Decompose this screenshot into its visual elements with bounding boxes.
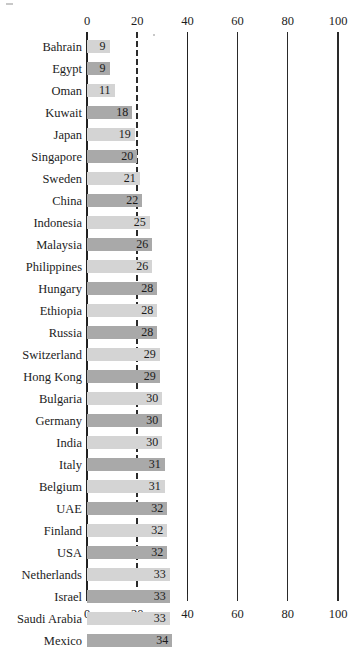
bar-value-label: 33 (87, 567, 166, 582)
category-label: Bulgaria (39, 391, 82, 407)
bar-row: Oman11 (0, 80, 360, 102)
bar-row: China22 (0, 190, 360, 212)
bar-row: Philippines26 (0, 256, 360, 278)
bar-value-label: 32 (87, 501, 163, 516)
bar-row: Hong Kong29 (0, 366, 360, 388)
category-label: Belgium (39, 479, 82, 495)
bar-value-label: 29 (87, 347, 156, 362)
bar-value-label: 31 (87, 479, 161, 494)
bar-row: USA32 (0, 542, 360, 564)
bar-row: Germany30 (0, 410, 360, 432)
bar-value-label: 33 (87, 589, 166, 604)
bar-value-label: 28 (87, 281, 153, 296)
bar-value-label: 19 (87, 127, 131, 142)
bar-value-label: 28 (87, 303, 153, 318)
bar-row: UAE32 (0, 498, 360, 520)
category-label: Hong Kong (23, 369, 82, 385)
category-label: Switzerland (22, 347, 82, 363)
category-label: Singapore (31, 149, 82, 165)
xtick-label-top-80: 80 (268, 14, 308, 28)
category-label: Mexico (44, 633, 82, 649)
category-label: Indonesia (33, 215, 82, 231)
bar-value-label: 9 (87, 39, 106, 54)
bar-value-label: 21 (87, 171, 136, 186)
xtick-label-top-40: 40 (167, 14, 207, 28)
bar-row: Israel33 (0, 586, 360, 608)
bar-value-label: 26 (87, 259, 148, 274)
bar-row: Ethiopia28 (0, 300, 360, 322)
xtick-label-top-60: 60 (218, 14, 258, 28)
bar-value-label: 22 (87, 193, 138, 208)
category-label: UAE (56, 501, 82, 517)
bar-row: Netherlands33 (0, 564, 360, 586)
category-label: Sweden (42, 171, 82, 187)
bar-value-label: 11 (87, 83, 111, 98)
category-label: Saudi Arabia (17, 611, 82, 627)
bar-row: Mexico34 (0, 630, 360, 651)
category-label: USA (57, 545, 82, 561)
category-label: Hungary (38, 281, 82, 297)
bar-row: Indonesia25 (0, 212, 360, 234)
bar-row: Belgium31 (0, 476, 360, 498)
category-label: Netherlands (22, 567, 82, 583)
category-label: Finland (44, 523, 82, 539)
bar-value-label: 31 (87, 457, 161, 472)
bar-row: Switzerland29 (0, 344, 360, 366)
bar-value-label: 34 (87, 633, 168, 648)
category-label: Italy (59, 457, 82, 473)
bar-row: Sweden21 (0, 168, 360, 190)
bar-row: Italy31 (0, 454, 360, 476)
bar-value-label: 30 (87, 435, 158, 450)
bar-value-label: 28 (87, 325, 153, 340)
bar-value-label: 32 (87, 523, 163, 538)
scan-artifact-mark (6, 3, 13, 5)
category-label: Philippines (26, 259, 82, 275)
category-label: Oman (51, 83, 82, 99)
xtick-label-top-100: 100 (318, 14, 358, 28)
bar-row: Singapore20 (0, 146, 360, 168)
bar-row: Finland32 (0, 520, 360, 542)
bar-row: Japan19 (0, 124, 360, 146)
bar-value-label: 33 (87, 611, 166, 626)
category-label: Japan (54, 127, 82, 143)
category-label: India (56, 435, 82, 451)
bar-row: Malaysia26 (0, 234, 360, 256)
xtick-label-top-0: 0 (67, 14, 107, 28)
bar-value-label: 9 (87, 61, 106, 76)
bar-value-label: 20 (87, 149, 133, 164)
category-label: China (52, 193, 82, 209)
xtick-label-top-20: 20 (117, 14, 157, 28)
bar-value-label: 30 (87, 391, 158, 406)
category-label: Kuwait (45, 105, 82, 121)
category-label: Malaysia (36, 237, 82, 253)
bar-value-label: 30 (87, 413, 158, 428)
category-label: Russia (49, 325, 82, 341)
bar-row: Saudi Arabia33 (0, 608, 360, 630)
category-label: Ethiopia (40, 303, 82, 319)
bar-row: Russia28 (0, 322, 360, 344)
bar-value-label: 29 (87, 369, 156, 384)
category-label: Israel (54, 589, 82, 605)
category-label: Egypt (52, 61, 82, 77)
bar-row: Bahrain9 (0, 36, 360, 58)
bar-value-label: 32 (87, 545, 163, 560)
bar-value-label: 26 (87, 237, 148, 252)
category-label: Bahrain (42, 39, 82, 55)
bar-value-label: 25 (87, 215, 146, 230)
bar-row: Hungary28 (0, 278, 360, 300)
bar-row: Bulgaria30 (0, 388, 360, 410)
bar-row: Egypt9 (0, 58, 360, 80)
bar-row: India30 (0, 432, 360, 454)
bar-row: Kuwait18 (0, 102, 360, 124)
bar-value-label: 18 (87, 105, 128, 120)
category-label: Germany (35, 413, 82, 429)
